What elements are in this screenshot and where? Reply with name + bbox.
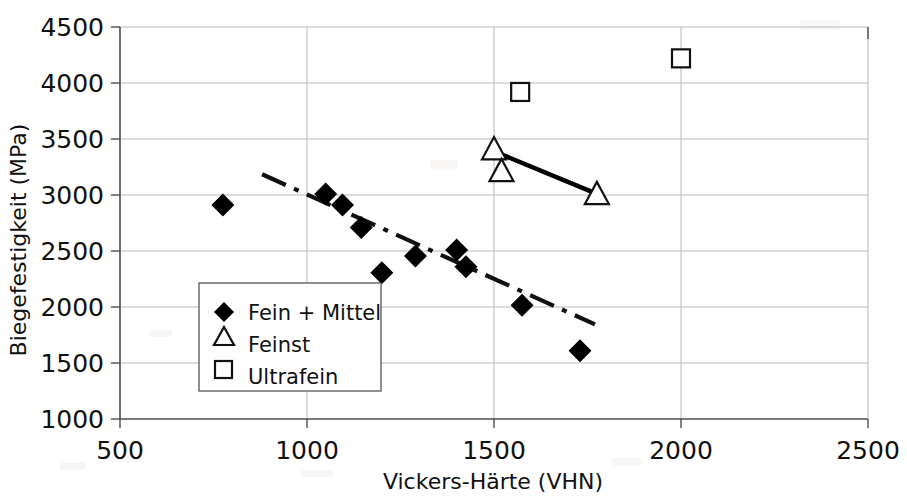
y-tick-label: 1000 — [40, 405, 104, 434]
chart-figure: 1000150020002500300035004000450050010001… — [0, 0, 907, 502]
legend-label-ultrafein: Ultrafein — [248, 365, 338, 389]
x-tick-label: 1500 — [462, 436, 526, 465]
y-tick-label: 3000 — [40, 181, 104, 210]
data-point-open-square — [511, 83, 529, 101]
y-tick-label: 4500 — [40, 13, 104, 42]
x-tick-label: 500 — [96, 436, 144, 465]
y-tick-label: 2000 — [40, 293, 104, 322]
scatter-plot-svg: 1000150020002500300035004000450050010001… — [0, 0, 907, 502]
legend-label-feinst: Feinst — [248, 333, 310, 357]
y-tick-label: 4000 — [40, 69, 104, 98]
legend-label-fein-mittel: Fein + Mittel — [248, 301, 381, 325]
x-tick-label: 2500 — [836, 436, 900, 465]
data-point-open-square — [672, 49, 690, 67]
y-tick-label: 1500 — [40, 349, 104, 378]
open-square-icon — [215, 361, 232, 378]
y-tick-label: 3500 — [40, 125, 104, 154]
y-axis-title: Biegefestigkeit (MPa) — [6, 124, 31, 357]
y-tick-label: 2500 — [40, 237, 104, 266]
legend: Fein + Mittel Feinst Ultrafein — [199, 283, 381, 391]
x-tick-label: 1000 — [275, 436, 339, 465]
x-tick-label: 2000 — [649, 436, 713, 465]
x-axis-title: Vickers-Härte (VHN) — [383, 469, 603, 494]
